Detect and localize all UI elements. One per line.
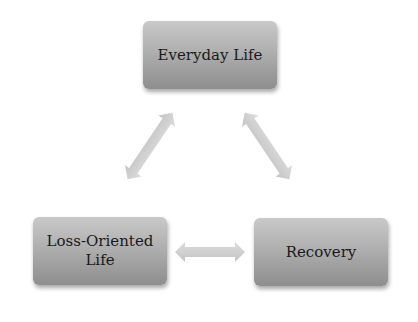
node-everyday-life: Everyday Life	[143, 21, 277, 89]
node-label: Everyday Life	[158, 46, 263, 65]
node-label: Loss-Oriented Life	[45, 232, 155, 270]
arrow-left-right	[175, 242, 245, 262]
arrow-top-left	[119, 107, 180, 185]
node-label: Recovery	[286, 243, 357, 262]
arrow-top-right	[236, 107, 297, 185]
node-loss-oriented-life: Loss-Oriented Life	[33, 217, 167, 285]
node-recovery: Recovery	[254, 218, 388, 286]
